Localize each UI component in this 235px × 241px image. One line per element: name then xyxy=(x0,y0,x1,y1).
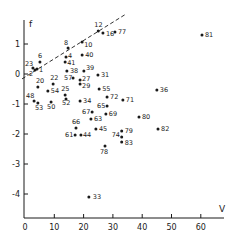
point-label: 66 xyxy=(72,118,80,126)
data-point: 10 xyxy=(81,40,93,49)
point-label: 83 xyxy=(125,139,133,147)
data-point: 55 xyxy=(98,85,111,93)
point-label: 41 xyxy=(67,59,75,67)
data-point: 69 xyxy=(104,110,117,118)
data-point: 25 xyxy=(61,85,69,97)
data-point: 20 xyxy=(36,77,44,89)
point-label: 82 xyxy=(161,125,169,133)
point-label: 29 xyxy=(82,82,90,90)
data-point: 34 xyxy=(79,97,92,105)
point-label: 50 xyxy=(47,103,55,111)
point-label: 78 xyxy=(100,148,108,156)
point-label: 55 xyxy=(102,85,110,93)
x-axis: V 0102030405060 xyxy=(22,204,226,232)
data-point: 61 xyxy=(65,131,77,139)
data-point: 81 xyxy=(200,31,213,39)
data-point: 36 xyxy=(155,86,168,94)
point-label: 80 xyxy=(142,113,150,121)
point-label: 39 xyxy=(86,64,94,72)
y-tick-label: -1 xyxy=(12,100,20,109)
point-label: 71 xyxy=(126,96,134,104)
y-axis-title: f xyxy=(29,19,33,29)
point-label: 12 xyxy=(94,21,102,29)
point-label: 25 xyxy=(61,85,69,93)
x-tick-label: 40 xyxy=(137,223,147,232)
point-label: 65 xyxy=(97,102,105,110)
data-point: 31 xyxy=(96,71,109,79)
data-point: 22 xyxy=(50,74,58,86)
y-tick-label: 1 xyxy=(15,40,20,49)
point-label: 53 xyxy=(35,104,43,112)
data-point: 80 xyxy=(137,113,150,121)
point-label: 69 xyxy=(109,110,117,118)
point-label: 20 xyxy=(36,77,44,85)
point-label: 57 xyxy=(64,74,72,82)
data-point: 52 xyxy=(62,97,70,107)
point-label: 36 xyxy=(160,86,168,94)
point-label: 33 xyxy=(93,193,101,201)
data-point: 1 xyxy=(36,66,44,74)
point-label: 6 xyxy=(38,52,42,60)
x-axis-title: V xyxy=(219,204,226,214)
data-point: 63 xyxy=(89,115,102,123)
point-label: 74 xyxy=(112,131,120,139)
x-tick-label: 50 xyxy=(166,223,176,232)
y-tick-label: -3 xyxy=(12,160,20,169)
data-points: 1216778181062312441403839315727292220545… xyxy=(25,21,213,201)
point-label: 81 xyxy=(205,31,213,39)
x-tick-label: 60 xyxy=(196,223,206,232)
point-label: 10 xyxy=(84,41,92,49)
point-label: 61 xyxy=(65,131,73,139)
data-point: 16 xyxy=(101,30,114,38)
data-point: 71 xyxy=(121,96,134,104)
point-label: 1 xyxy=(39,66,43,74)
point-label: 23 xyxy=(25,60,33,68)
data-point: 83 xyxy=(120,139,133,147)
point-label: 31 xyxy=(101,71,109,79)
data-point: 33 xyxy=(87,193,101,201)
point-label: 44 xyxy=(83,131,91,139)
x-tick-label: 20 xyxy=(79,223,89,232)
x-tick-label: 0 xyxy=(22,223,27,232)
data-point: 82 xyxy=(157,125,170,133)
data-point: 6 xyxy=(38,52,42,64)
data-point: 50 xyxy=(47,100,55,111)
data-point: 65 xyxy=(97,102,109,110)
point-label: 67 xyxy=(82,108,90,116)
data-point: 41 xyxy=(64,59,76,67)
data-point: 23 xyxy=(25,60,35,70)
data-point: 78 xyxy=(100,145,108,157)
data-point: 53 xyxy=(35,102,43,113)
x-tick-label: 10 xyxy=(49,223,59,232)
point-label: 79 xyxy=(125,127,133,135)
data-point: 66 xyxy=(72,118,80,130)
point-label: 40 xyxy=(85,51,93,59)
point-label: 48 xyxy=(26,92,34,100)
data-point: 29 xyxy=(79,82,91,90)
data-point: 48 xyxy=(26,92,36,103)
data-point: 79 xyxy=(120,127,133,135)
point-label: 63 xyxy=(94,115,102,123)
data-point: 40 xyxy=(81,51,94,59)
point-label: 34 xyxy=(83,97,91,105)
data-point: 67 xyxy=(82,108,94,116)
data-point: 44 xyxy=(79,131,91,139)
y-tick-label: -2 xyxy=(12,130,20,139)
data-point: 39 xyxy=(82,64,94,73)
point-label: 54 xyxy=(51,87,59,95)
x-tick-label: 30 xyxy=(108,223,118,232)
data-point: 77 xyxy=(113,28,126,36)
y-axis: f 10-1-2-3-4 xyxy=(12,19,33,218)
point-label: 72 xyxy=(110,93,118,101)
data-point: 8 xyxy=(64,39,70,50)
data-point: 12 xyxy=(94,21,102,32)
y-tick-label: 0 xyxy=(15,70,20,79)
point-label: 45 xyxy=(99,125,107,133)
point-label: 22 xyxy=(50,74,58,82)
point-label: 52 xyxy=(62,99,70,107)
point-label: 2 xyxy=(29,70,33,78)
scatter-chart: f 10-1-2-3-4 V 0102030405060 12167781810… xyxy=(0,0,235,241)
data-point: 57 xyxy=(64,74,75,82)
data-point: 45 xyxy=(94,125,107,133)
point-label: 16 xyxy=(106,30,114,38)
